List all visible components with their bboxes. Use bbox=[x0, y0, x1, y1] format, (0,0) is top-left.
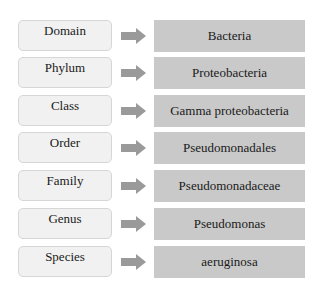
taxon-box-species: aeruginosa bbox=[154, 246, 305, 278]
row-genus: Genus Pseudomonas bbox=[0, 208, 321, 241]
row-domain: Domain Bacteria bbox=[0, 20, 321, 53]
arrow-right-icon bbox=[121, 65, 146, 81]
rank-box-domain: Domain bbox=[18, 20, 112, 51]
taxon-label: Proteobacteria bbox=[192, 65, 267, 80]
taxon-box-order: Pseudomonadales bbox=[154, 132, 305, 164]
rank-label: Domain bbox=[44, 23, 86, 38]
taxon-box-family: Pseudomonadaceae bbox=[154, 170, 305, 202]
rank-label: Genus bbox=[48, 211, 81, 226]
arrow-right-icon bbox=[121, 254, 146, 270]
arrow-right-icon bbox=[121, 178, 146, 194]
rank-label: Species bbox=[45, 249, 85, 264]
taxon-label: Bacteria bbox=[208, 28, 251, 43]
taxon-box-class: Gamma proteobacteria bbox=[154, 95, 305, 127]
rank-label: Order bbox=[50, 135, 80, 150]
arrow-right-icon bbox=[121, 28, 146, 44]
rank-box-species: Species bbox=[18, 246, 112, 277]
taxon-box-genus: Pseudomonas bbox=[154, 208, 305, 240]
rank-box-genus: Genus bbox=[18, 208, 112, 239]
taxon-label: Pseudomonadales bbox=[183, 140, 276, 155]
taxon-label: Pseudomonadaceae bbox=[179, 178, 281, 193]
rank-box-phylum: Phylum bbox=[18, 57, 112, 88]
row-class: Class Gamma proteobacteria bbox=[0, 95, 321, 128]
rank-box-class: Class bbox=[18, 95, 112, 126]
row-phylum: Phylum Proteobacteria bbox=[0, 57, 321, 90]
row-family: Family Pseudomonadaceae bbox=[0, 170, 321, 203]
taxon-label: aeruginosa bbox=[201, 254, 257, 269]
rank-label: Phylum bbox=[45, 60, 85, 75]
taxon-box-domain: Bacteria bbox=[154, 20, 305, 52]
rank-label: Family bbox=[47, 173, 84, 188]
rank-label: Class bbox=[51, 98, 79, 113]
taxon-label: Pseudomonas bbox=[194, 216, 266, 231]
taxon-label: Gamma proteobacteria bbox=[170, 103, 289, 118]
arrow-right-icon bbox=[121, 216, 146, 232]
rank-box-order: Order bbox=[18, 132, 112, 163]
taxon-box-phylum: Proteobacteria bbox=[154, 57, 305, 89]
row-order: Order Pseudomonadales bbox=[0, 132, 321, 165]
arrow-right-icon bbox=[121, 140, 146, 156]
rank-box-family: Family bbox=[18, 170, 112, 201]
row-species: Species aeruginosa bbox=[0, 246, 321, 279]
arrow-right-icon bbox=[121, 103, 146, 119]
